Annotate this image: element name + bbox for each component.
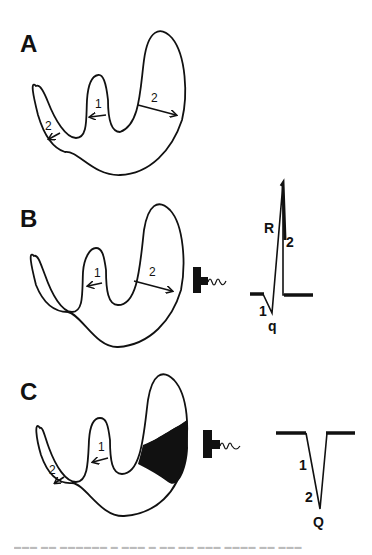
panel-b-heart — [31, 204, 184, 347]
label-c-1: 1 — [98, 440, 105, 454]
label-b-1: 1 — [94, 266, 101, 280]
ecg-label-2: 2 — [286, 234, 294, 250]
electrode-icon — [193, 267, 226, 293]
arrow-2-lateral — [134, 281, 172, 291]
panel-c-heart — [36, 374, 188, 516]
ecg-label-2: 2 — [305, 489, 313, 505]
label-b-2: 2 — [149, 265, 156, 279]
ecg-label-R: R — [264, 220, 274, 236]
panel-a-heart — [33, 31, 186, 175]
arrow-1-septum — [88, 283, 102, 286]
ecg-label-1: 1 — [259, 303, 267, 319]
ecg-label-Q: Q — [313, 514, 324, 530]
figure-canvas: 1 2 2 1 2 R 2 1 q 1 2 — [0, 0, 372, 555]
electrode-icon — [203, 430, 240, 458]
figure-caption: ▬▬▬ ▬▬ ▬▬▬▬▬▬ ▬ ▬▬▬ ▬ ▬▬ ▬▬ ▬▬▬ ▬▬▬▬ ▬▬ … — [14, 544, 360, 550]
label-a-1: 1 — [95, 97, 102, 111]
label-a-2-right: 2 — [151, 91, 158, 105]
arrow-2-lv — [49, 133, 60, 139]
arrow-1-septum — [90, 115, 106, 117]
ecg-trace-q — [276, 433, 355, 509]
arrow-1-septum — [93, 458, 108, 462]
label-c-2: 2 — [49, 463, 56, 477]
label-a-2-left: 2 — [45, 119, 52, 133]
arrow-2-lateral — [138, 105, 176, 115]
ecg-trace-qr — [250, 183, 313, 313]
ecg-label-1: 1 — [299, 457, 307, 473]
ecg-label-q: q — [268, 318, 277, 334]
